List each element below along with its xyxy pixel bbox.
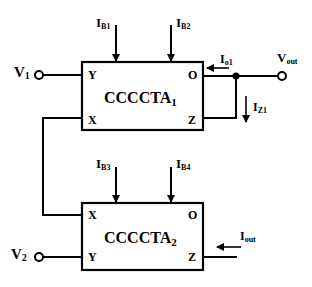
port-x-label: X xyxy=(88,208,97,222)
v2-label: V2 xyxy=(11,246,27,263)
iout-label: Iout xyxy=(240,229,256,244)
port-x-label: X xyxy=(88,113,97,127)
block-title: CCCCTA2 xyxy=(104,229,177,248)
io1-label: Io1 xyxy=(220,52,233,67)
bias-ib3: IB3 xyxy=(96,156,116,202)
input-v1: V1 xyxy=(14,64,82,81)
ib2-label: IB2 xyxy=(176,15,190,31)
ib3-label: IB3 xyxy=(96,156,110,172)
ib4-label: IB4 xyxy=(176,156,190,172)
bias-ib4: IB4 xyxy=(171,156,190,202)
bias-ib2: IB2 xyxy=(171,15,190,61)
iz1-label: IZ1 xyxy=(253,100,267,115)
input-v2: V2 xyxy=(11,246,82,263)
port-y-label: Y xyxy=(88,250,97,264)
current-iz1: IZ1 xyxy=(246,96,267,122)
port-y-label: Y xyxy=(88,68,97,82)
bias-ib1: IB1 xyxy=(96,15,116,61)
ib1-label: IB1 xyxy=(96,15,110,31)
current-iout: Iout xyxy=(217,229,256,247)
v1-label: V1 xyxy=(14,64,30,81)
block-ccccta1: Y X O Z CCCCTA1 xyxy=(82,62,203,130)
x-connection-wire xyxy=(43,118,82,215)
port-o-label: O xyxy=(188,208,197,222)
port-z-label: Z xyxy=(188,113,196,127)
terminal-icon xyxy=(278,72,286,80)
terminal-icon xyxy=(35,253,43,261)
port-o-label: O xyxy=(188,68,197,82)
block-ccccta2: X Y O Z CCCCTA2 xyxy=(82,203,203,270)
output-network: Vout xyxy=(203,50,298,118)
vout-label: Vout xyxy=(277,50,298,66)
junction-dot xyxy=(233,73,240,80)
current-io1: Io1 xyxy=(207,52,233,68)
port-z-label: Z xyxy=(188,250,196,264)
block-title: CCCCTA1 xyxy=(104,89,177,108)
terminal-icon xyxy=(35,71,43,79)
circuit-diagram: Y X O Z CCCCTA1 X Y O Z CCCCTA2 V1 V2 IB… xyxy=(0,0,312,287)
